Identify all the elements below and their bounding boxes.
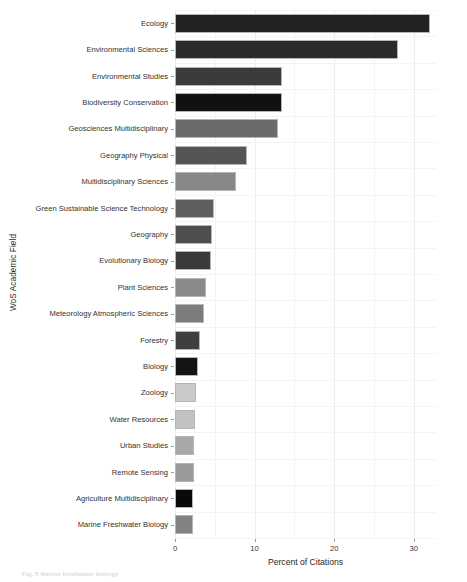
bar	[175, 278, 206, 297]
figure-caption: Fig. 5 Marine freshwater biology	[22, 571, 452, 580]
y-axis-tick-label: Geography	[0, 230, 168, 239]
gridline-horizontal	[175, 274, 436, 275]
bar	[175, 40, 398, 59]
y-axis-tick-mark	[171, 393, 174, 394]
y-axis-tick-mark	[171, 129, 174, 130]
gridline-horizontal	[175, 300, 436, 301]
bar	[175, 331, 200, 350]
x-axis-tick-label: 30	[399, 544, 429, 553]
y-axis-tick-mark	[171, 366, 174, 367]
y-axis-tick-mark	[171, 446, 174, 447]
y-axis-tick-label: Agriculture Multidisciplinary	[0, 494, 168, 503]
bar	[175, 410, 195, 429]
gridline-horizontal	[175, 10, 436, 11]
y-axis-tick-label: Meteorology Atmospheric Sciences	[0, 309, 168, 318]
y-axis-tick-label: Water Resources	[0, 415, 168, 424]
x-axis-tick-mark	[334, 539, 335, 542]
bar	[175, 383, 196, 402]
bar	[175, 436, 194, 455]
gridline-horizontal	[175, 221, 436, 222]
bar	[175, 14, 430, 33]
bar	[175, 357, 198, 376]
gridline-horizontal	[175, 485, 436, 486]
y-axis-tick-mark	[171, 208, 174, 209]
gridline-horizontal	[175, 512, 436, 513]
gridline-horizontal	[175, 116, 436, 117]
y-axis-tick-mark	[171, 419, 174, 420]
y-axis-tick-mark	[171, 498, 174, 499]
x-axis-tick-label: 0	[160, 544, 190, 553]
bar	[175, 119, 278, 138]
y-axis-tick-mark	[171, 155, 174, 156]
y-axis-tick-mark	[171, 340, 174, 341]
x-axis-tick-mark	[175, 539, 176, 542]
gridline-horizontal	[175, 406, 436, 407]
y-axis-tick-label: Marine Freshwater Biology	[0, 520, 168, 529]
y-axis-tick-mark	[171, 287, 174, 288]
bar	[175, 146, 247, 165]
bar	[175, 172, 236, 191]
bar	[175, 251, 211, 270]
y-axis-tick-label: Geosciences Multidisciplinary	[0, 124, 168, 133]
y-axis-tick-label: Environmental Sciences	[0, 45, 168, 54]
y-axis-tick-label: Biodiversity Conservation	[0, 98, 168, 107]
bar	[175, 489, 193, 508]
gridline-horizontal	[175, 459, 436, 460]
y-axis-tick-mark	[171, 234, 174, 235]
y-axis-tick-label: Multidisciplinary Sciences	[0, 177, 168, 186]
bar	[175, 304, 204, 323]
y-axis-title: WoS Academic Field	[4, 0, 24, 545]
y-axis-tick-mark	[171, 76, 174, 77]
y-axis-tick-mark	[171, 182, 174, 183]
y-axis-tick-label: Environmental Studies	[0, 72, 168, 81]
x-axis-tick-label: 10	[240, 544, 270, 553]
figure-bar-chart: WoS Academic Field Percent of Citations …	[0, 0, 467, 582]
bar	[175, 199, 214, 218]
gridline-horizontal	[175, 327, 436, 328]
bar	[175, 93, 282, 112]
y-axis-tick-label: Remote Sensing	[0, 468, 168, 477]
y-axis-tick-label: Green Sustainable Science Technology	[0, 204, 168, 213]
y-axis-tick-mark	[171, 261, 174, 262]
gridline-horizontal	[175, 353, 436, 354]
gridline-horizontal	[175, 36, 436, 37]
y-axis-tick-label: Geography Physical	[0, 151, 168, 160]
y-axis-tick-label: Ecology	[0, 19, 168, 28]
x-axis-tick-mark	[255, 539, 256, 542]
gridline-horizontal	[175, 538, 436, 539]
gridline-horizontal	[175, 195, 436, 196]
bar	[175, 515, 193, 534]
y-axis-tick-mark	[171, 472, 174, 473]
bar	[175, 225, 212, 244]
y-axis-tick-label: Plant Sciences	[0, 283, 168, 292]
bar	[175, 463, 194, 482]
gridline-horizontal	[175, 380, 436, 381]
x-axis-title: Percent of Citations	[175, 557, 436, 567]
plot-panel	[175, 10, 436, 538]
y-axis-tick-label: Evolutionary Biology	[0, 256, 168, 265]
y-axis-tick-mark	[171, 102, 174, 103]
y-axis-tick-mark	[171, 23, 174, 24]
gridline-horizontal	[175, 89, 436, 90]
gridline-horizontal	[175, 168, 436, 169]
x-axis-tick-label: 20	[319, 544, 349, 553]
bar	[175, 67, 282, 86]
figure-caption-text: Fig. 5 Marine freshwater biology	[22, 571, 118, 577]
y-axis-title-text: WoS Academic Field	[10, 234, 19, 311]
y-axis-tick-mark	[171, 314, 174, 315]
gridline-horizontal	[175, 248, 436, 249]
y-axis-tick-mark	[171, 525, 174, 526]
gridline-horizontal	[175, 63, 436, 64]
y-axis-tick-label: Forestry	[0, 336, 168, 345]
x-axis-tick-mark	[414, 539, 415, 542]
y-axis-tick-label: Urban Studies	[0, 441, 168, 450]
gridline-horizontal	[175, 432, 436, 433]
gridline-horizontal	[175, 142, 436, 143]
y-axis-tick-label: Zoology	[0, 388, 168, 397]
y-axis-tick-mark	[171, 50, 174, 51]
y-axis-tick-label: Biology	[0, 362, 168, 371]
